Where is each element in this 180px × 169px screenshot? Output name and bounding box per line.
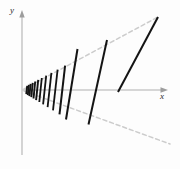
fan-segment xyxy=(39,78,42,102)
envelope-lower-dashed-line xyxy=(24,91,170,144)
fan-segment xyxy=(29,84,30,96)
y-axis xyxy=(19,10,24,155)
fan-segment xyxy=(28,85,29,95)
figure-canvas xyxy=(0,0,180,169)
segment-fan xyxy=(26,17,158,125)
y-axis-arrowhead-icon xyxy=(19,10,24,18)
x-axis-label: x xyxy=(160,92,164,101)
y-axis-label: y xyxy=(10,6,14,15)
figure-container: y x xyxy=(0,0,180,169)
